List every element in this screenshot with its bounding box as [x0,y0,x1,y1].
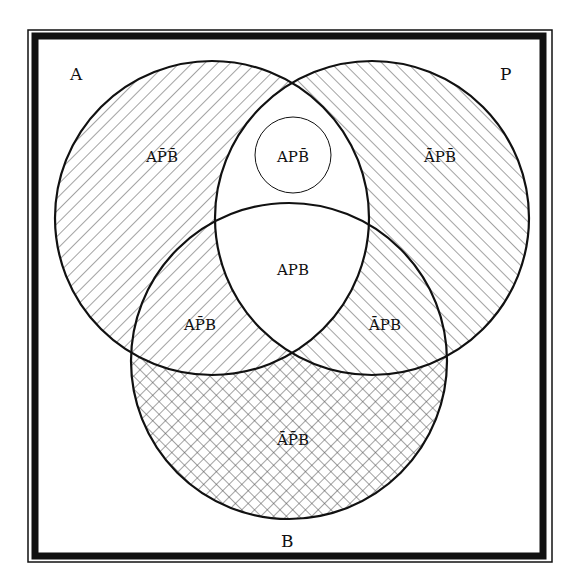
venn-diagram: A P B AP̄B̄ APB̄ ĀPB̄ APB AP̄B ĀPB ĀP̄B [0,0,576,583]
region-label-notA-notP-B: ĀP̄B [276,431,309,449]
region-label-A-P-notB: APB̄ [276,148,309,166]
set-label-B: B [281,531,294,551]
region-label-notA-P-notB: ĀPB̄ [423,148,456,166]
set-label-P: P [500,64,511,84]
region-label-notA-P-B: ĀPB [368,316,401,334]
set-label-A: A [69,64,83,84]
region-B-only-fill [131,203,447,519]
region-label-A-notP-notB: AP̄B̄ [145,148,178,166]
region-label-A-P-B: APB [276,261,309,279]
venn-diagram-canvas: A P B AP̄B̄ APB̄ ĀPB̄ APB AP̄B ĀPB ĀP̄B [0,0,576,583]
region-label-A-notP-B: AP̄B [183,316,216,334]
